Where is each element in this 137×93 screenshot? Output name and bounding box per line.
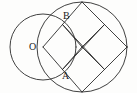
inner-square-ne: [82, 25, 105, 48]
inner-square-se: [82, 47, 105, 70]
point-label-o: O: [29, 42, 36, 52]
point-label-a: A: [62, 71, 69, 81]
geometry-figure: O B A: [0, 0, 137, 93]
point-label-b: B: [63, 11, 70, 21]
inner-square-sw: [63, 47, 83, 70]
inner-square-nw: [63, 25, 83, 48]
